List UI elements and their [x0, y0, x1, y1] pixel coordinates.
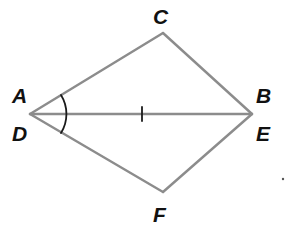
segment-cb — [163, 33, 252, 114]
segment-ac — [30, 33, 163, 114]
congruent-triangles-diagram: A D C B E F — [0, 0, 289, 233]
label-d: D — [12, 122, 27, 145]
label-a: A — [11, 84, 27, 107]
segment-df — [30, 114, 163, 192]
label-c: C — [153, 5, 169, 28]
label-e: E — [256, 122, 271, 145]
segment-fe — [163, 114, 252, 192]
label-f: F — [153, 203, 167, 226]
scan-speck — [282, 178, 284, 180]
label-b: B — [256, 84, 271, 107]
